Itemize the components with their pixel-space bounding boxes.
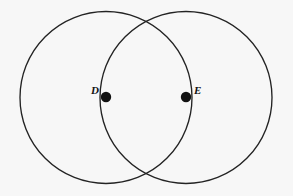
- point-d-label: D: [90, 84, 99, 96]
- diagram-canvas: D E: [0, 0, 293, 196]
- point-e-label: E: [193, 84, 201, 96]
- point-d-dot: [101, 92, 111, 102]
- diagram-background: [0, 0, 293, 196]
- point-e-dot: [181, 92, 191, 102]
- geometry-figure: D E: [0, 0, 293, 196]
